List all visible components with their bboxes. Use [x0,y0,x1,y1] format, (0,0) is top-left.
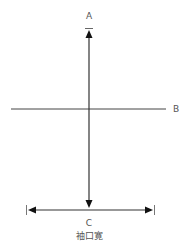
label-c: C [86,219,92,228]
arrow-down-head [86,200,93,208]
arrow-left-head [28,207,36,214]
measurement-diagram [0,0,187,252]
arrow-right-head [145,207,153,214]
caption-cuff-width: 袖口寛 [76,232,103,241]
arrow-up-head [86,30,93,38]
label-a: A [86,12,92,21]
label-b: B [173,105,179,114]
